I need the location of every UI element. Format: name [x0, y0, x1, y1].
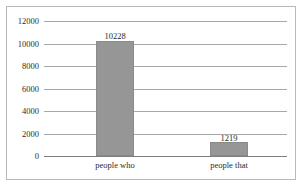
plot-area: 12000 10000 8000 6000 4000 2000 0 10228 …	[44, 21, 287, 156]
ytick-label-4000: 4000	[22, 107, 39, 116]
bar-people-who[interactable]: 10228 people who	[96, 41, 134, 156]
ytick-label-8000: 8000	[22, 62, 39, 71]
gridline-12000: 12000	[44, 21, 287, 22]
ytick-label-12000: 12000	[18, 17, 39, 26]
gridline-2000: 2000	[44, 134, 287, 135]
ytick-label-10000: 10000	[18, 39, 39, 48]
chart-figure: 12000 10000 8000 6000 4000 2000 0 10228 …	[6, 6, 296, 180]
ytick-label-6000: 6000	[22, 84, 39, 93]
gridline-6000: 6000	[44, 89, 287, 90]
ytick-label-2000: 2000	[22, 129, 39, 138]
gridline-4000: 4000	[44, 111, 287, 112]
category-label-people-that: people that	[210, 161, 248, 170]
axis-baseline-0: 0	[44, 156, 287, 157]
bar-people-that[interactable]: 1219 people that	[210, 142, 248, 156]
gridline-8000: 8000	[44, 66, 287, 67]
category-label-people-who: people who	[95, 161, 134, 170]
bar-value-people-who: 10228	[104, 32, 125, 41]
ytick-label-0: 0	[35, 152, 39, 161]
bar-value-people-that: 1219	[221, 134, 238, 143]
gridline-10000: 10000	[44, 44, 287, 45]
